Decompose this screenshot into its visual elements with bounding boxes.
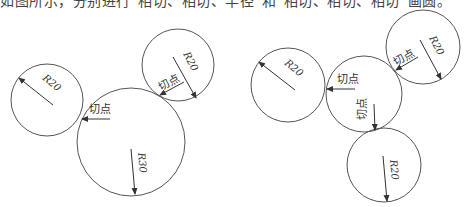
tangent-label: 切点 [89,103,111,116]
radius-label: R20 [181,49,201,73]
tangent-circles-drawing: R20 切点 R20 切点 R30 R20 切点 [0,0,468,207]
left-figure: R20 切点 R20 切点 R30 [11,29,214,196]
tangent-arrow [374,104,375,130]
radius-label: R20 [282,56,306,78]
tangent-label: 切点 [337,73,359,86]
radius-line [383,156,387,201]
tangent-label: 切点 [356,98,369,120]
radius-label: R30 [136,151,149,174]
radius-label: R20 [40,71,64,93]
radius-label: R20 [427,33,447,57]
diagram-stage: 如图所示，分别进行“相切、相切、半径”和“相切、相切、相切”画圆。 R20 切点… [0,0,468,207]
radius-label: R20 [388,158,401,181]
circle-right-top [386,10,460,84]
right-figure: R20 切点 R20 切点 切点 R20 [251,10,460,202]
radius-line [131,149,135,194]
